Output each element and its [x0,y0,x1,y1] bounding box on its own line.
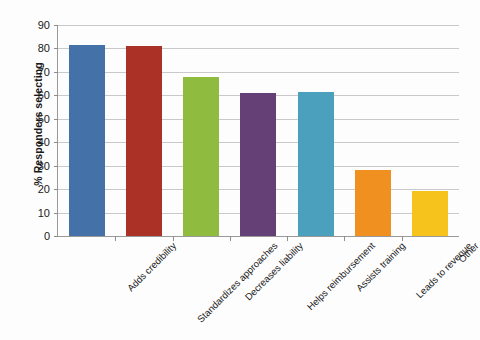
bar[interactable] [355,170,391,236]
bar[interactable] [298,92,334,236]
bar[interactable] [240,93,276,236]
bar-slot [173,25,230,236]
bar-slot [58,25,115,236]
bar-slot [344,25,401,236]
y-tick-label: 20 [38,183,50,195]
y-tick-mark [54,236,58,237]
bar[interactable] [183,77,219,236]
bar[interactable] [412,191,448,236]
y-tick-label: 50 [38,113,50,125]
bars-group [58,25,459,236]
x-axis-labels: Adds credibilityStandardizes approachesD… [57,240,458,335]
bar[interactable] [126,46,162,236]
bar-slot [230,25,287,236]
y-tick-label: 0 [44,230,50,242]
y-tick-label: 60 [38,89,50,101]
x-tick-label: Other [456,240,480,265]
bar-slot [402,25,459,236]
y-tick-label: 30 [38,160,50,172]
plot-area: 0102030405060708090 [57,25,459,237]
y-tick-label: 10 [38,207,50,219]
bar[interactable] [69,45,105,236]
bar-chart-figure: % Responders selecting 01020304050607080… [0,0,480,340]
y-tick-label: 70 [38,66,50,78]
y-tick-label: 90 [38,19,50,31]
x-tick-label: Adds credibility [125,240,178,293]
bar-slot [115,25,172,236]
y-tick-label: 80 [38,42,50,54]
bar-slot [287,25,344,236]
y-tick-label: 40 [38,136,50,148]
